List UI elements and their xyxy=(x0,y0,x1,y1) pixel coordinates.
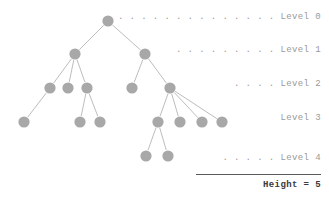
level-label-0: . . . . . . . . . . . . . . Level 0 xyxy=(118,12,321,22)
tree-node xyxy=(174,116,185,127)
tree-height-diagram: . . . . . . . . . . . . . . Level 0 . . … xyxy=(0,0,329,200)
tree-node xyxy=(162,150,173,161)
tree-node xyxy=(196,116,207,127)
tree-edge xyxy=(28,93,47,117)
tree-node xyxy=(152,116,163,127)
tree-edge xyxy=(113,25,141,50)
tree-node xyxy=(44,82,55,93)
tree-node xyxy=(94,116,105,127)
tree-node xyxy=(74,116,85,127)
tree-edge xyxy=(54,59,72,83)
tree-node xyxy=(102,15,113,26)
tree-edge xyxy=(89,94,98,117)
tree-node xyxy=(140,150,151,161)
tree-node xyxy=(62,82,73,93)
tree-node xyxy=(139,48,150,59)
tree-edge xyxy=(172,94,179,116)
level-label-2: . . . . Level 2 xyxy=(234,79,321,89)
tree-edge xyxy=(134,60,143,83)
tree-node xyxy=(126,82,137,93)
tree-graphic xyxy=(0,0,329,200)
tree-node xyxy=(164,82,175,93)
tree-edge xyxy=(175,91,217,118)
tree-edge xyxy=(81,94,86,116)
tree-node xyxy=(216,116,227,127)
tree-edge xyxy=(148,128,156,151)
tree-edge xyxy=(160,128,167,150)
tree-nodes xyxy=(18,15,227,161)
level-label-1: . . . . . . . . . Level 1 xyxy=(176,45,321,55)
tree-node xyxy=(18,116,29,127)
tree-edge xyxy=(79,25,103,49)
tree-edge xyxy=(69,60,74,82)
tree-edge xyxy=(77,60,85,83)
tree-node xyxy=(69,48,80,59)
height-label: Height = 5 xyxy=(263,180,321,190)
tree-edge xyxy=(160,94,168,117)
summary-divider xyxy=(196,174,321,175)
level-label-3: Level 3 xyxy=(280,113,321,123)
tree-edges xyxy=(28,25,217,150)
tree-node xyxy=(81,82,92,93)
level-label-4: . . . . . Level 4 xyxy=(222,153,321,163)
tree-edge xyxy=(149,59,167,83)
